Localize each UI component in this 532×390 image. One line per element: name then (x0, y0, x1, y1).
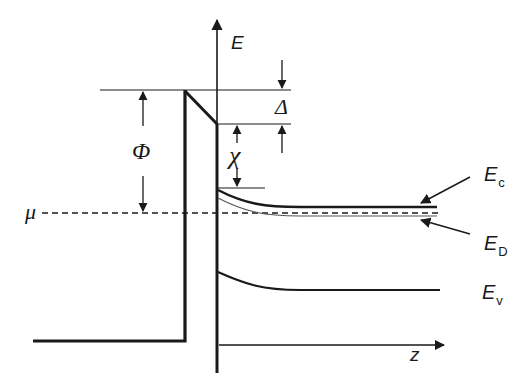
donor-level-label: ED (484, 233, 508, 253)
work-function-label: Φ (132, 139, 150, 163)
barrier-offset-label: Δ (275, 96, 288, 118)
conduction-band-label-main: E (484, 163, 497, 185)
energy-axis-label: E (231, 33, 244, 52)
valence-band-label: Ev (482, 282, 503, 302)
chemical-potential-label: μ (25, 201, 36, 223)
conduction-band-label: Ec (484, 164, 505, 184)
metal-band-edge (33, 90, 185, 341)
band-diagram-graphics (0, 0, 532, 390)
valence-band-label-main: E (482, 281, 495, 303)
conduction-band-curve (218, 190, 437, 207)
insulator-barrier-slope (185, 91, 217, 124)
band-diagram: E z Φ Δ χ μ Ec ED Ev (0, 0, 532, 390)
electron-affinity-label: χ (229, 143, 240, 169)
ec-pointer-arrow (421, 177, 470, 203)
donor-level-label-sub: D (498, 244, 507, 259)
valence-band-curve (218, 272, 440, 290)
conduction-band-label-sub: c (498, 175, 505, 190)
donor-level-label-main: E (484, 232, 497, 254)
valence-band-label-sub: v (496, 293, 503, 308)
ed-pointer-arrow (421, 220, 470, 234)
z-axis-label: z (410, 345, 420, 364)
